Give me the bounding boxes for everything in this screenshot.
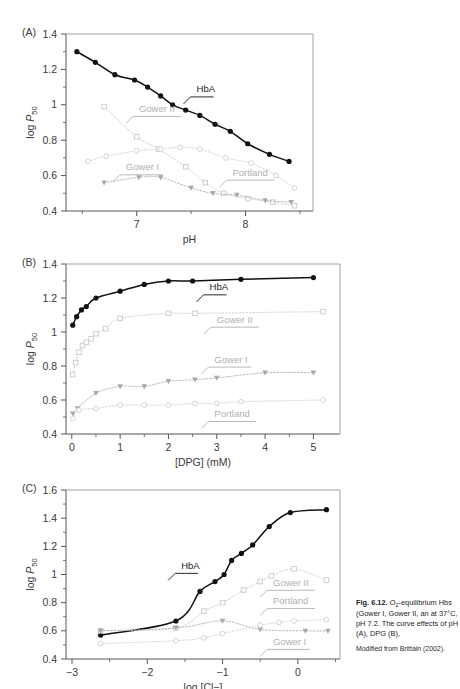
series-annotation: Portland: [214, 408, 249, 419]
data-point: [70, 372, 75, 377]
data-point: [193, 311, 198, 316]
annotation-leader: [204, 327, 211, 334]
data-point: [112, 72, 117, 77]
data-point: [188, 186, 194, 191]
data-point: [229, 558, 234, 563]
data-point: [193, 401, 198, 406]
data-point: [220, 600, 225, 605]
data-point: [166, 278, 171, 283]
y-tick-label: 1.2: [42, 292, 57, 304]
annotation-leader: [184, 97, 191, 104]
data-point: [93, 391, 99, 396]
data-point: [292, 567, 297, 572]
data-point: [174, 638, 179, 643]
y-tick-label: 1.2: [42, 63, 57, 75]
data-point: [324, 578, 329, 583]
x-tick-label: 3: [214, 441, 220, 453]
data-point: [89, 337, 94, 342]
series-annotation: Gower II: [217, 314, 253, 325]
data-point: [212, 122, 217, 127]
data-point: [258, 579, 263, 584]
series-curve: [77, 52, 289, 162]
data-point: [241, 588, 246, 593]
y-tick-label: 1: [51, 98, 57, 110]
series-annotation: Portland: [232, 167, 267, 178]
data-point: [197, 147, 202, 152]
data-point: [274, 173, 279, 178]
data-point: [104, 154, 109, 159]
y-tick-label: 0.8: [42, 134, 57, 146]
series-annotation: Gower I: [273, 636, 306, 647]
data-point: [311, 275, 316, 280]
panel-letter: (B): [22, 256, 36, 268]
caption-source: Modified from Brittain (2002).: [356, 644, 460, 653]
figure-root: (A)0.40.60.811.21.478pHlog P50HbAGower I…: [0, 0, 460, 689]
data-point: [85, 159, 90, 164]
series-annotation: Gower II: [139, 103, 175, 114]
annotation-leader: [197, 295, 204, 302]
series-annotation: HbA: [210, 281, 229, 292]
annotation-leader: [260, 590, 267, 597]
data-point: [212, 579, 217, 584]
x-tick-label: −2: [141, 666, 153, 678]
data-point: [98, 641, 103, 646]
panel-c: (C)0.40.60.811.21.41.6−3−2−10log [Cl−]lo…: [0, 466, 345, 689]
y-tick-label: 0.6: [42, 394, 57, 406]
data-point: [84, 340, 89, 345]
data-point: [94, 331, 99, 336]
data-point: [166, 311, 171, 316]
series-annotation: Portland: [273, 595, 308, 606]
y-tick-label: 0.4: [42, 653, 57, 665]
data-point: [74, 314, 79, 319]
data-point: [74, 49, 79, 54]
series-gower-ii: [102, 104, 297, 208]
x-tick-label: 7: [134, 218, 140, 230]
annotation-leader: [260, 649, 267, 656]
data-point: [321, 398, 326, 403]
data-point: [102, 104, 107, 109]
series-gower-ii: [70, 309, 325, 377]
data-point: [173, 618, 178, 623]
data-point: [250, 542, 255, 547]
data-point: [267, 524, 272, 529]
series-gower-i: [101, 175, 294, 205]
series-curve: [73, 278, 314, 326]
data-point: [190, 278, 195, 283]
data-point: [183, 108, 188, 113]
data-point: [118, 316, 123, 321]
series-curve: [73, 400, 323, 419]
data-point: [145, 85, 150, 90]
data-point: [245, 141, 250, 146]
y-tick-label: 1.4: [42, 512, 57, 524]
data-point: [286, 159, 291, 164]
data-point: [132, 77, 137, 82]
data-point: [201, 609, 206, 614]
data-point: [325, 629, 331, 634]
y-tick-label: 1: [51, 326, 57, 338]
panel-b: (B)0.40.60.811.21.4012345[DPG] (mM)log P…: [0, 238, 345, 466]
data-point: [77, 350, 82, 355]
data-point: [220, 631, 225, 636]
data-point: [166, 403, 171, 408]
y-tick-label: 1.4: [42, 28, 57, 40]
data-point: [103, 326, 108, 331]
y-axis-title: log P50: [24, 558, 39, 590]
series-portland: [70, 398, 325, 422]
y-tick-label: 0.4: [42, 428, 57, 440]
panel-a: (A)0.40.60.811.21.478pHlog P50HbAGower I…: [0, 4, 345, 236]
data-point: [93, 60, 98, 65]
annotation-leader: [126, 116, 133, 123]
caption-equilibrium: -equilibrium: [398, 598, 436, 607]
y-tick-label: 0.6: [42, 169, 57, 181]
data-point: [197, 589, 202, 594]
data-point: [134, 134, 139, 139]
x-tick-label: −3: [66, 666, 78, 678]
series-annotation: HbA: [197, 83, 216, 94]
y-tick-label: 1.4: [42, 258, 57, 270]
data-point: [158, 147, 163, 152]
data-point: [136, 175, 142, 180]
series-annotation: HbA: [181, 560, 200, 571]
data-point: [118, 403, 123, 408]
series-annotation: Gower I: [126, 161, 159, 172]
annotation-leader: [201, 367, 208, 374]
